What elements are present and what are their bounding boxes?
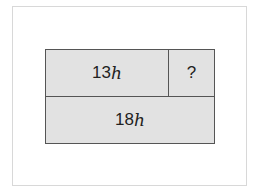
- bar-13h-coef: 13: [92, 63, 111, 83]
- bar-13h-var: h: [111, 63, 122, 83]
- bar-18h-var: h: [134, 110, 145, 130]
- bar-13h: 13h: [45, 49, 169, 97]
- bar-18h: 18h: [45, 96, 215, 144]
- bar-18h-coef: 18: [115, 110, 134, 130]
- bar-unknown-label: ?: [187, 63, 196, 83]
- bar-unknown: ?: [168, 49, 215, 97]
